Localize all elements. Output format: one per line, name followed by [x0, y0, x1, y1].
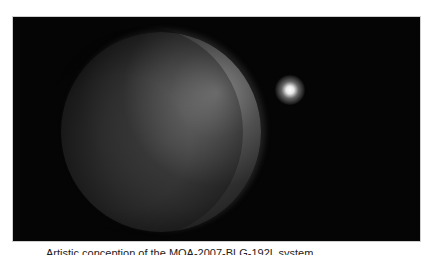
planet — [61, 32, 261, 232]
space-illustration — [12, 16, 421, 242]
host-star — [275, 75, 305, 105]
figure-caption: Artistic conception of the MOA-2007-BLG-… — [46, 246, 313, 255]
